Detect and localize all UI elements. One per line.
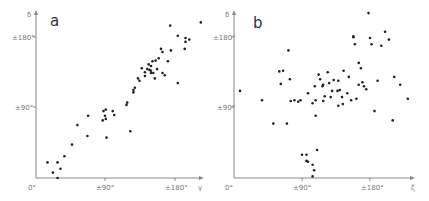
data-point	[87, 115, 90, 118]
data-point	[305, 153, 308, 156]
data-point	[76, 124, 79, 127]
panel-a: 0° ±90° ±180° γ ±90° ±180° δ a	[12, 10, 204, 192]
data-point	[339, 89, 342, 92]
data-point	[346, 92, 349, 95]
data-point	[328, 82, 331, 85]
data-point	[355, 97, 358, 100]
data-point	[105, 108, 108, 111]
panel-b-xtick-0: 0°	[225, 184, 233, 192]
data-point	[261, 99, 264, 102]
panel-a-ylabel: δ	[27, 11, 31, 19]
data-point	[183, 48, 186, 51]
data-point	[160, 48, 163, 51]
data-point	[357, 83, 360, 86]
data-point	[388, 38, 391, 41]
data-point	[184, 41, 187, 44]
data-point	[138, 80, 141, 83]
data-point	[104, 115, 107, 118]
data-point	[348, 76, 351, 79]
data-point	[71, 143, 74, 146]
data-point	[287, 49, 290, 52]
data-point	[399, 83, 402, 86]
data-point	[52, 171, 55, 174]
panel-a-x-arrow-icon	[199, 176, 204, 180]
data-point	[297, 101, 300, 104]
data-point	[105, 136, 108, 139]
data-point	[164, 74, 167, 77]
data-point	[125, 104, 128, 107]
data-point	[299, 99, 302, 102]
data-point	[177, 34, 180, 37]
data-point	[161, 51, 164, 54]
data-point	[169, 24, 172, 27]
data-point	[161, 72, 164, 75]
data-point	[331, 90, 334, 93]
data-point	[322, 83, 325, 86]
data-point	[289, 78, 292, 81]
data-point	[113, 114, 116, 117]
data-point	[46, 161, 49, 164]
data-point	[311, 175, 314, 178]
scatter-figure: 0° ±90° ±180° γ ±90° ±180° δ a 0° ±90° ±…	[0, 0, 429, 201]
data-point	[314, 99, 317, 102]
data-point	[373, 110, 376, 113]
panel-a-xtick-0: 0°	[28, 184, 36, 192]
data-point	[307, 160, 310, 163]
panel-b-y-arrow-icon	[232, 10, 236, 15]
data-point	[156, 68, 159, 71]
data-point	[322, 100, 325, 103]
data-point	[146, 68, 149, 71]
data-point	[56, 161, 59, 164]
data-point	[301, 153, 304, 156]
panel-a-ytick-90: ±90°	[15, 104, 33, 112]
data-point	[144, 75, 147, 78]
data-point	[289, 100, 292, 103]
data-point	[150, 69, 153, 72]
data-point	[126, 101, 129, 104]
data-point	[144, 71, 147, 74]
data-point	[152, 72, 155, 75]
data-point	[332, 79, 335, 82]
data-point	[313, 169, 316, 172]
data-point	[314, 85, 317, 88]
data-point	[132, 89, 135, 92]
data-point	[393, 76, 396, 79]
panel-a-label: a	[50, 12, 59, 30]
data-point	[329, 96, 332, 99]
data-point	[369, 37, 372, 40]
data-point	[311, 164, 314, 167]
data-point	[316, 149, 319, 152]
data-point	[323, 95, 326, 98]
data-point	[59, 167, 62, 170]
panel-a-y-arrow-icon	[34, 10, 38, 15]
data-point	[286, 122, 289, 125]
data-point	[337, 80, 340, 83]
panel-b-xlabel: ζ	[411, 184, 415, 192]
data-point	[137, 77, 140, 80]
data-point	[363, 85, 366, 88]
data-point	[384, 31, 387, 34]
panel-b-ylabel: δ	[225, 11, 229, 19]
data-point	[56, 177, 59, 180]
panel-a-xtick-90: ±90°	[96, 184, 114, 192]
data-point	[150, 65, 153, 68]
data-point	[188, 38, 191, 41]
data-point	[170, 49, 173, 52]
data-point	[200, 21, 203, 24]
panel-b-ytick-90: ±90°	[217, 104, 235, 112]
data-point	[342, 103, 345, 106]
data-point	[132, 91, 135, 94]
panel-b-points	[239, 12, 409, 178]
data-point	[184, 37, 187, 40]
panel-a-xlabel: γ	[198, 184, 202, 192]
data-point	[319, 78, 322, 81]
data-point	[167, 60, 170, 63]
data-point	[360, 67, 363, 70]
data-point	[150, 72, 153, 75]
data-point	[341, 96, 344, 99]
data-point	[391, 119, 394, 122]
data-point	[361, 81, 364, 84]
data-point	[157, 57, 160, 60]
data-point	[376, 80, 379, 83]
data-point	[380, 45, 383, 48]
